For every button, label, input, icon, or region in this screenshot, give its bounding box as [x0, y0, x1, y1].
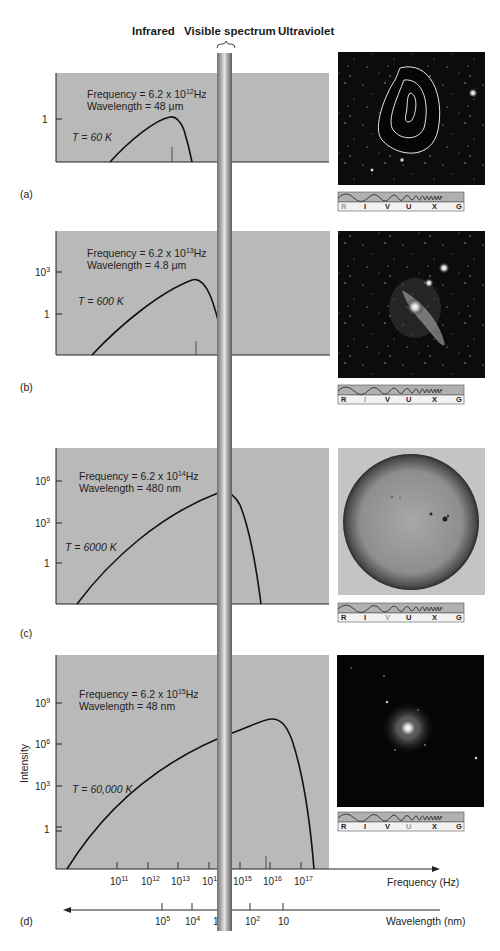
frequency-tick-label: 1013	[171, 875, 190, 887]
temperature-annotation: T = 600 K	[78, 295, 125, 307]
wavelength-tick-label: 102	[245, 915, 260, 927]
visible-spectrum-band	[217, 53, 232, 931]
svg-text:R: R	[341, 613, 347, 622]
svg-text:U: U	[406, 202, 411, 211]
frequency-tick-label: 1011	[110, 875, 128, 887]
frequency-tick-label: 1017	[294, 875, 313, 887]
panel-label: (c)	[20, 627, 32, 639]
wavelength-axis-label: Wavelength (nm)	[386, 915, 466, 927]
ultraviolet-header: Ultraviolet	[278, 25, 334, 37]
svg-text:G: G	[456, 395, 462, 404]
panel-a: 1 Frequency = 6.2 x 1012Hz Wavelength = …	[20, 73, 329, 200]
panel-c: 106 103 1 Frequency = 6.2 x 1014Hz Wavel…	[20, 448, 329, 639]
frequency-axis-label: Frequency (Hz)	[387, 876, 459, 888]
image-b	[338, 231, 485, 378]
plot-area	[56, 73, 329, 162]
svg-text:R: R	[341, 822, 347, 831]
svg-text:X: X	[432, 395, 437, 404]
temperature-annotation: T = 60,000 K	[72, 783, 133, 795]
svg-text:X: X	[432, 613, 437, 622]
y-tick-label: 1	[44, 558, 50, 569]
svg-text:G: G	[456, 613, 462, 622]
wavelength-annotation: Wavelength = 480 nm	[79, 482, 181, 494]
y-tick-label: 1	[42, 114, 48, 125]
y-tick-label: 1	[44, 309, 50, 320]
band-strip-b: R I V U X G	[338, 385, 464, 404]
svg-text:X: X	[432, 202, 437, 211]
y-tick-label: 106	[35, 738, 50, 750]
wavelength-annotation: Wavelength = 4.8 μm	[87, 259, 187, 271]
wavelength-tick-label: 105	[155, 915, 170, 927]
panel-label: (b)	[20, 381, 33, 393]
svg-text:I: I	[364, 395, 366, 404]
frequency-tick-label: 1015	[233, 875, 252, 887]
arrow-left-icon	[63, 907, 71, 913]
svg-text:U: U	[406, 613, 411, 622]
wavelength-annotation: Wavelength = 48 nm	[79, 700, 175, 712]
frequency-tick-label: 1016	[263, 875, 282, 887]
panel-label: (d)	[20, 915, 33, 927]
svg-text:G: G	[456, 822, 462, 831]
temperature-annotation: T = 6000 K	[65, 541, 118, 553]
y-tick-label: 103	[35, 517, 50, 529]
panel-b: 103 1 Frequency = 6.2 x 1013Hz Wavelengt…	[20, 231, 330, 393]
wavelength-annotation: Wavelength = 48 μm	[87, 100, 184, 112]
wavelength-tick-label: 10	[278, 916, 290, 927]
svg-text:I: I	[364, 822, 366, 831]
y-tick-label: 1	[44, 824, 50, 835]
image-d	[337, 655, 484, 807]
band-strip-d: R I V U X G	[338, 812, 464, 831]
y-tick-label: 109	[35, 697, 50, 709]
svg-text:U: U	[406, 822, 411, 831]
svg-text:V: V	[385, 822, 390, 831]
blackbody-figure: Infrared Visible spectrum Ultraviolet 1 …	[0, 0, 500, 951]
svg-text:V: V	[385, 613, 390, 622]
image-c	[338, 448, 485, 595]
visible-brace-icon	[217, 41, 235, 48]
svg-text:G: G	[456, 202, 462, 211]
svg-text:I: I	[364, 202, 366, 211]
wavelength-tick-label: 104	[185, 915, 200, 927]
y-tick-label: 103	[35, 780, 50, 792]
y-axis-label: Intensity	[18, 743, 30, 783]
svg-text:X: X	[432, 822, 437, 831]
temperature-annotation: T = 60 K	[72, 131, 113, 143]
frequency-tick-label: 1012	[141, 875, 160, 887]
y-tick-label: 106	[35, 475, 50, 487]
arrow-right-icon	[432, 866, 440, 872]
image-a	[338, 52, 485, 185]
y-tick-label: 103	[35, 266, 50, 278]
svg-text:R: R	[341, 395, 347, 404]
svg-text:U: U	[406, 395, 411, 404]
svg-text:R: R	[341, 202, 347, 211]
panel-label: (a)	[20, 188, 33, 200]
svg-text:V: V	[385, 202, 390, 211]
visible-spectrum-header: Visible spectrum	[184, 25, 276, 37]
infrared-header: Infrared	[132, 25, 175, 37]
band-strip-c: R I V U X G	[338, 603, 464, 622]
svg-text:V: V	[385, 395, 390, 404]
svg-text:I: I	[364, 613, 366, 622]
band-strip-a: R I V U X G	[338, 192, 464, 211]
